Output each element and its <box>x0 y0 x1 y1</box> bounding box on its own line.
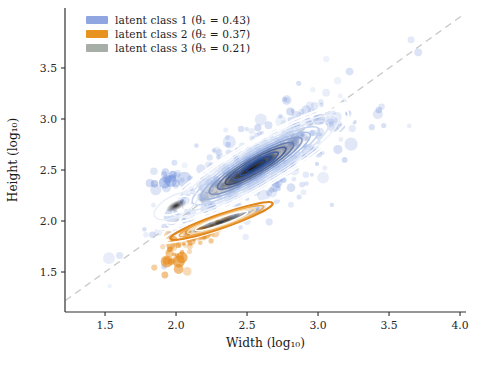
scatter-point <box>333 145 342 154</box>
x-tick-label: 2.0 <box>167 319 184 332</box>
scatter-point <box>317 172 329 184</box>
x-tick-label: 3.0 <box>309 319 326 332</box>
scatter-point <box>330 203 334 207</box>
scatter-point <box>216 155 221 160</box>
scatter-point <box>244 127 249 132</box>
scatter-point <box>373 109 383 119</box>
scatter-point <box>296 81 301 86</box>
scatter-point <box>183 267 192 276</box>
scatter-point <box>288 202 294 208</box>
scatter-point <box>299 182 305 188</box>
scatter-point <box>116 252 123 259</box>
scatter-point <box>334 77 341 84</box>
scatter-point <box>198 240 203 245</box>
scatter-point <box>407 124 412 129</box>
scatter-point <box>310 173 314 177</box>
figure: 1.52.02.53.03.54.01.52.02.53.03.5Width (… <box>0 0 479 365</box>
scatter-point <box>254 124 261 131</box>
y-tick-label: 2.0 <box>40 215 57 228</box>
scatter-point <box>322 89 330 97</box>
scatter-point <box>143 232 149 238</box>
scatter-point <box>103 252 115 264</box>
scatter-point <box>162 272 169 279</box>
scatter-point <box>265 121 273 129</box>
legend-swatch-class-3 <box>86 44 108 52</box>
y-axis-label: Height (log₁₀) <box>6 118 20 202</box>
scatter-point <box>238 126 244 132</box>
y-tick-label: 3.0 <box>40 113 57 126</box>
scatter-point <box>287 183 296 192</box>
legend-entry-class-3: latent class 3 (θ₃ = 0.21) <box>86 41 250 55</box>
scatter-point <box>209 238 214 243</box>
scatter-point <box>238 225 243 230</box>
x-tick-label: 4.0 <box>451 319 468 332</box>
scatter-point <box>178 244 182 248</box>
scatter-point <box>346 68 354 76</box>
legend-label-class-2: latent class 2 (θ₂ = 0.37) <box>115 28 250 40</box>
scatter-point <box>282 178 287 183</box>
scatter-point <box>303 172 309 178</box>
scatter-point <box>414 48 422 56</box>
scatter-point <box>171 160 177 166</box>
scatter-point <box>108 284 112 288</box>
plot-area <box>65 15 463 301</box>
scatter-point <box>223 128 228 133</box>
scatter-point <box>182 163 188 169</box>
scatter-point <box>342 157 348 163</box>
legend-entry-class-2: latent class 2 (θ₂ = 0.37) <box>86 27 250 41</box>
scatter-point <box>243 234 249 240</box>
scatter-point <box>339 137 344 142</box>
scatter-point <box>322 166 327 171</box>
scatter-point <box>151 265 157 271</box>
x-tick-label: 2.5 <box>238 319 255 332</box>
scatter-point <box>323 56 329 62</box>
scatter-point <box>194 143 199 148</box>
scatter-point <box>297 195 302 200</box>
scatter-point <box>315 162 319 166</box>
x-tick-label: 3.5 <box>380 319 397 332</box>
scatter-point <box>160 244 165 249</box>
scatter-point <box>338 94 343 99</box>
scatter-series-class-2 <box>151 247 191 279</box>
scatter-point <box>173 256 185 268</box>
scatter-point <box>291 177 296 182</box>
scatter-point <box>165 175 177 187</box>
scatter-point <box>278 114 282 118</box>
scatter-point <box>150 167 158 175</box>
legend: latent class 1 (θ₁ = 0.43) latent class … <box>86 13 250 55</box>
legend-swatch-class-1 <box>86 16 108 24</box>
x-tick-label: 1.5 <box>96 319 113 332</box>
scatter-point <box>381 123 386 128</box>
scatter-point <box>301 189 307 195</box>
legend-swatch-class-2 <box>86 30 108 38</box>
scatter-point <box>318 99 323 104</box>
scatter-point <box>183 244 187 248</box>
x-axis-label: Width (log₁₀) <box>226 336 305 350</box>
scatter-point <box>306 102 314 110</box>
scatter-point <box>345 138 358 151</box>
scatter-point <box>207 154 213 160</box>
legend-label-class-3: latent class 3 (θ₃ = 0.21) <box>115 42 250 54</box>
scatter-point <box>225 135 230 140</box>
scatter-point <box>291 109 295 113</box>
legend-entry-class-1: latent class 1 (θ₁ = 0.43) <box>86 13 250 27</box>
y-tick-label: 1.5 <box>40 266 57 279</box>
scatter-point <box>369 124 375 130</box>
scatter-point <box>248 128 254 134</box>
scatter-point <box>151 203 156 208</box>
scatter-point <box>408 36 415 43</box>
scatter-point <box>310 87 315 92</box>
scatter-point <box>284 97 290 103</box>
scatter-point <box>142 227 147 232</box>
scatter-point <box>266 218 273 225</box>
y-tick-label: 3.5 <box>40 62 57 75</box>
scatter-point <box>166 249 174 257</box>
scatter-point <box>150 184 161 195</box>
scatter-point <box>299 109 305 115</box>
scatter-point <box>212 148 216 152</box>
legend-label-class-1: latent class 1 (θ₁ = 0.43) <box>115 14 250 26</box>
y-tick-label: 2.5 <box>40 164 57 177</box>
scatter-point <box>187 249 192 254</box>
scatter-point <box>161 171 167 177</box>
